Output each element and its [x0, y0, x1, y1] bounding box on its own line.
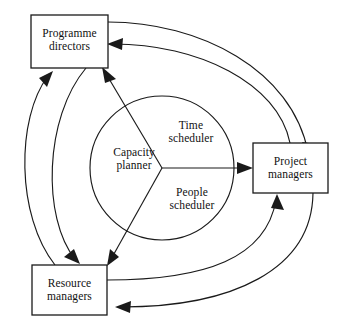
spoke-people-scheduler-to-resource-managers: [107, 168, 162, 266]
arrowhead-icon: [107, 38, 123, 50]
arc-path: [52, 68, 86, 259]
arc-resource-managers-to-project-managers: [107, 194, 284, 280]
spoke-time-scheduler-to-project-managers: [162, 162, 253, 174]
arc-path: [25, 76, 55, 265]
arc-path: [107, 200, 276, 280]
arrowhead-icon: [39, 71, 53, 87]
box-project-managers[interactable]: [253, 143, 328, 193]
arc-programme-directors-to-project-managers: [108, 22, 316, 158]
arrowhead-icon: [64, 249, 80, 264]
arc-programme-directors-to-resource-managers: [52, 68, 86, 264]
arc-project-managers-to-resource-managers: [115, 193, 313, 313]
arc-path: [113, 44, 290, 143]
diagram-canvas: Programme directors Project managers Res…: [0, 0, 340, 334]
spoke-line: [110, 168, 162, 261]
spoke-line: [105, 72, 162, 168]
arc-path: [108, 22, 308, 152]
arc-path: [121, 193, 313, 307]
arrowhead-icon: [107, 249, 119, 266]
arc-resource-managers-to-programme-directors: [25, 71, 55, 265]
box-programme-directors[interactable]: [31, 15, 108, 68]
box-resource-managers[interactable]: [32, 265, 107, 315]
arrowhead-icon: [271, 194, 284, 210]
arc-project-managers-to-programme-directors: [107, 38, 290, 143]
diagram-graphics: [0, 0, 340, 334]
arrowhead-icon: [102, 67, 116, 83]
arrowhead-icon: [115, 301, 131, 313]
arrowhead-icon: [237, 162, 253, 174]
